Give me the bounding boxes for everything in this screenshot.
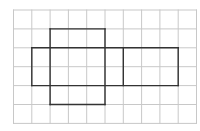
grid-diagram bbox=[0, 0, 200, 131]
